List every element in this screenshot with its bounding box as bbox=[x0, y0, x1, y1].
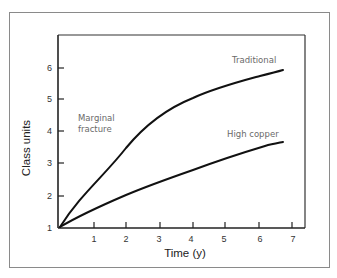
x-axis-title: Time (y) bbox=[164, 247, 206, 259]
x-tick-labels: 1 2 3 4 5 6 7 bbox=[91, 234, 295, 244]
traditional-curve bbox=[60, 70, 283, 227]
x-tick-label: 2 bbox=[123, 234, 128, 244]
y-tick-label: 5 bbox=[47, 94, 52, 104]
y-ticks bbox=[58, 68, 64, 196]
marginal-fracture-label-line1: Marginal bbox=[78, 113, 115, 123]
x-ticks bbox=[94, 222, 292, 228]
high-copper-label: High copper bbox=[227, 129, 279, 139]
y-tick-label: 1 bbox=[47, 223, 52, 233]
marginal-fracture-label-line2: fracture bbox=[78, 124, 112, 134]
y-tick-labels: 1 2 3 4 5 6 bbox=[47, 63, 52, 233]
traditional-label: Traditional bbox=[231, 55, 276, 65]
y-tick-label: 4 bbox=[47, 126, 52, 136]
x-tick-label: 3 bbox=[156, 234, 161, 244]
y-tick-label: 6 bbox=[47, 63, 52, 73]
y-tick-label: 3 bbox=[47, 158, 52, 168]
x-tick-label: 5 bbox=[221, 234, 226, 244]
line-chart: 1 2 3 4 5 6 1 2 3 4 5 6 7 Time (y) Class… bbox=[0, 0, 337, 278]
x-tick-label: 1 bbox=[91, 234, 96, 244]
x-tick-label: 7 bbox=[290, 234, 295, 244]
x-tick-label: 4 bbox=[188, 234, 193, 244]
x-tick-label: 6 bbox=[257, 234, 262, 244]
y-axis-title: Class units bbox=[20, 120, 32, 176]
y-tick-label: 2 bbox=[47, 191, 52, 201]
figure-caption-cutoff bbox=[10, 274, 330, 278]
